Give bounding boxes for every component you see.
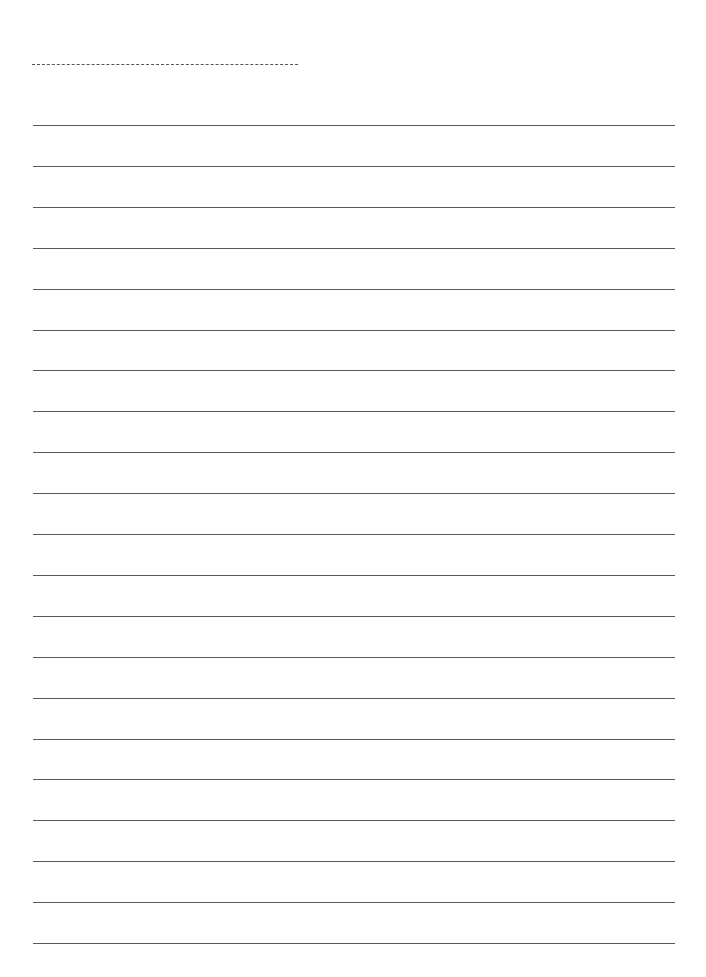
ruled-line	[33, 493, 675, 494]
ruled-line	[33, 330, 675, 331]
ruled-line	[33, 166, 675, 167]
ruled-line	[33, 411, 675, 412]
ruled-line	[33, 248, 675, 249]
ruled-line	[33, 370, 675, 371]
ruled-line	[33, 698, 675, 699]
ruled-line	[33, 125, 675, 126]
ruled-line	[33, 575, 675, 576]
ruled-line	[33, 207, 675, 208]
ruled-line	[33, 739, 675, 740]
ruled-lines-area[interactable]	[0, 0, 706, 977]
ruled-line	[33, 820, 675, 821]
ruled-line	[33, 289, 675, 290]
ruled-line	[33, 616, 675, 617]
ruled-line	[33, 943, 675, 944]
ruled-line	[33, 902, 675, 903]
ruled-line	[33, 657, 675, 658]
ruled-line	[33, 452, 675, 453]
ruled-line	[33, 861, 675, 862]
ruled-line	[33, 779, 675, 780]
ruled-line	[33, 534, 675, 535]
